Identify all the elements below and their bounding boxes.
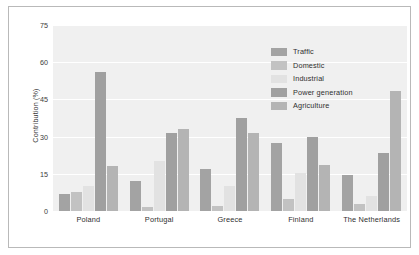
legend-swatch-icon [271,102,287,111]
bar [342,175,353,211]
bar [366,196,377,211]
bar [130,181,141,211]
x-axis-tick-labels: PolandPortugalGreeceFinlandThe Netherlan… [53,215,407,224]
y-axis-tick-label: 75 [40,21,48,30]
legend-label: Industrial [293,74,324,83]
bar [390,91,401,211]
bar [248,133,259,211]
bar [212,206,223,211]
x-axis-tick-label: Poland [53,215,124,224]
bar [154,161,165,211]
plot-area: 01530456075 [53,25,407,211]
y-axis-tick-label: 60 [40,58,48,67]
legend-label: Traffic [293,47,314,56]
y-axis-label: Contribution (%) [31,68,40,164]
x-axis-tick-label: Finland [265,215,336,224]
y-axis-tick-label: 15 [40,169,48,178]
bar [319,165,330,211]
bar [224,186,235,211]
legend-item: Traffic [271,45,353,59]
legend-item: Industrial [271,72,353,86]
bar-group [195,25,266,211]
bar-groups [53,25,407,211]
y-axis-tick-label: 45 [40,95,48,104]
bar [166,133,177,211]
bar [95,72,106,211]
bar [307,137,318,211]
bar [295,173,306,211]
bar [142,207,153,211]
chart-legend: TrafficDomesticIndustrialPower generatio… [271,45,353,113]
bar [354,204,365,211]
bar [71,192,82,211]
figure-frame: Contribution (%) 01530456075 PolandPortu… [8,6,411,248]
legend-item: Agriculture [271,99,353,113]
bar [378,153,389,211]
legend-swatch-icon [271,88,287,97]
bar [283,199,294,211]
bar [236,118,247,211]
y-axis-tick-label: 0 [44,207,48,216]
bar-group [53,25,124,211]
legend-label: Domestic [293,61,325,70]
legend-swatch-icon [271,75,287,84]
legend-item: Power generation [271,86,353,100]
legend-label: Agriculture [293,101,330,110]
bar [107,166,118,211]
legend-label: Power generation [293,88,353,97]
bar [271,143,282,211]
x-axis-tick-label: Greece [195,215,266,224]
legend-swatch-icon [271,48,287,57]
bar [200,169,211,211]
x-axis-tick-label: The Netherlands [336,215,407,224]
bar [178,129,189,211]
legend-item: Domestic [271,59,353,73]
legend-swatch-icon [271,61,287,70]
bar-group [124,25,195,211]
chart-figure: Contribution (%) 01530456075 PolandPortu… [0,0,419,255]
bar [83,186,94,211]
y-axis-tick-label: 30 [40,132,48,141]
x-axis-tick-label: Portugal [124,215,195,224]
bar [59,194,70,211]
